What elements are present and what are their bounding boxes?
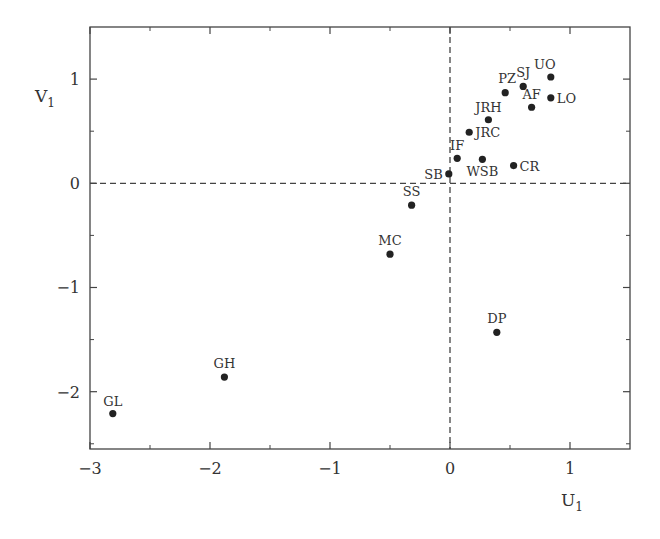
point-label: AF xyxy=(521,87,540,102)
point-marker xyxy=(454,155,461,162)
point-label: SS xyxy=(403,184,421,199)
data-point-jrc: JRC xyxy=(466,125,501,140)
y-axis-title: V1 xyxy=(34,86,55,110)
point-marker xyxy=(466,129,473,136)
point-marker xyxy=(510,162,517,169)
point-marker xyxy=(547,73,554,80)
point-label: CR xyxy=(520,159,541,174)
point-marker xyxy=(485,116,492,123)
axis-titles: U1 V1 xyxy=(34,86,583,514)
point-marker xyxy=(502,89,509,96)
point-marker xyxy=(221,374,228,381)
point-label: WSB xyxy=(466,164,498,179)
x-axis-title: U1 xyxy=(561,490,583,514)
point-marker xyxy=(408,202,415,209)
axis-ticks: −3−2−10110−1−2 xyxy=(56,27,630,478)
point-marker xyxy=(528,104,535,111)
scatter-chart: −3−2−10110−1−2 UOSJPZAFLOJRHJRCIFWSBCRSB… xyxy=(0,0,660,539)
data-point-lo: LO xyxy=(547,91,576,106)
point-marker xyxy=(493,329,500,336)
point-label: JRC xyxy=(473,125,500,140)
data-points: UOSJPZAFLOJRHJRCIFWSBCRSBSSMCDPGHGL xyxy=(103,57,576,417)
data-point-gl: GL xyxy=(103,394,122,418)
x-tick-label: −1 xyxy=(318,459,342,478)
point-label: LO xyxy=(557,91,576,106)
plot-frame xyxy=(90,27,630,449)
data-point-mc: MC xyxy=(378,233,401,258)
y-tick-label: 0 xyxy=(70,174,80,193)
data-point-af: AF xyxy=(521,87,540,111)
data-point-ss: SS xyxy=(403,184,421,209)
point-marker xyxy=(386,251,393,258)
y-tick-label: −2 xyxy=(56,383,80,402)
point-label: MC xyxy=(378,233,401,248)
point-label: UO xyxy=(534,57,556,72)
data-point-uo: UO xyxy=(534,57,556,81)
point-marker xyxy=(109,410,116,417)
x-tick-label: 0 xyxy=(445,459,455,478)
point-label: SJ xyxy=(516,65,530,80)
point-label: JRH xyxy=(473,100,501,115)
reference-lines xyxy=(90,27,630,449)
point-marker xyxy=(479,156,486,163)
point-label: IF xyxy=(450,138,464,153)
data-point-if: IF xyxy=(450,138,464,162)
data-point-cr: CR xyxy=(510,159,541,174)
data-point-gh: GH xyxy=(214,356,236,381)
x-tick-label: −3 xyxy=(78,459,102,478)
point-label: GL xyxy=(103,394,122,409)
y-tick-label: 1 xyxy=(70,70,80,89)
data-point-sb: SB xyxy=(424,167,452,182)
data-point-pz: PZ xyxy=(498,71,516,97)
point-marker xyxy=(445,170,452,177)
y-tick-label: −1 xyxy=(56,278,80,297)
point-label: GH xyxy=(214,356,236,371)
point-marker xyxy=(547,94,554,101)
x-tick-label: 1 xyxy=(565,459,575,478)
point-label: PZ xyxy=(498,71,516,86)
data-point-dp: DP xyxy=(487,311,506,336)
data-point-wsb: WSB xyxy=(466,156,498,180)
x-tick-label: −2 xyxy=(198,459,222,478)
point-label: SB xyxy=(424,167,442,182)
point-label: DP xyxy=(487,311,506,326)
plot-border xyxy=(90,27,630,449)
data-point-jrh: JRH xyxy=(473,100,501,124)
